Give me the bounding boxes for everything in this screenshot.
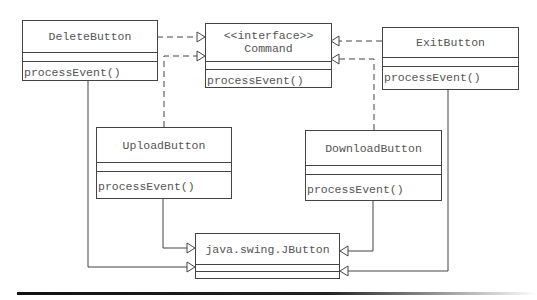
class-name-section: <<interface>> Command	[206, 24, 331, 62]
attributes-section	[196, 265, 339, 272]
class-name: java.swing.JButton	[205, 243, 329, 256]
realization-upload-to-command	[164, 56, 197, 127]
class-command-interface: <<interface>> Command processEvent()	[205, 23, 332, 88]
methods-section: processEvent()	[97, 172, 231, 198]
realization-download-to-command	[339, 59, 374, 130]
triangle-arrow-icon	[331, 54, 339, 64]
method: processEvent()	[384, 71, 481, 84]
triangle-arrow-icon	[331, 36, 339, 46]
methods-section	[196, 272, 339, 278]
attributes-section	[306, 166, 441, 175]
triangle-arrow-icon	[340, 246, 348, 256]
attributes-section	[383, 58, 518, 67]
stereotype: <<interface>>	[224, 29, 314, 42]
class-name: DeleteButton	[49, 30, 132, 43]
triangle-arrow-icon	[340, 266, 348, 276]
attributes-section	[206, 62, 331, 70]
method: processEvent()	[307, 183, 404, 196]
class-download-button: DownloadButton processEvent()	[305, 130, 442, 201]
class-name: DownloadButton	[325, 142, 422, 155]
class-exit-button: ExitButton processEvent()	[382, 27, 519, 90]
method: processEvent()	[207, 74, 304, 87]
methods-section: processEvent()	[383, 67, 518, 89]
attributes-section	[97, 163, 231, 172]
methods-section: processEvent()	[206, 70, 331, 87]
class-upload-button: UploadButton processEvent()	[96, 127, 232, 199]
triangle-arrow-icon	[187, 262, 195, 272]
class-name: UploadButton	[123, 139, 206, 152]
class-delete-button: DeleteButton processEvent()	[22, 20, 158, 81]
attributes-section	[23, 53, 157, 62]
method: processEvent()	[24, 66, 121, 79]
methods-section: processEvent()	[23, 62, 157, 80]
class-jbutton: java.swing.JButton	[195, 233, 340, 279]
class-name: Command	[244, 42, 292, 55]
class-name: ExitButton	[416, 36, 485, 49]
class-name-section: DownloadButton	[306, 131, 441, 166]
triangle-arrow-icon	[197, 32, 205, 42]
bottom-rule-divider	[17, 292, 537, 295]
generalization-upload-to-jbutton	[163, 198, 187, 248]
class-name-section: DeleteButton	[23, 21, 157, 53]
class-name-section: UploadButton	[97, 128, 231, 163]
generalization-download-to-jbutton	[348, 200, 373, 251]
class-name-section: ExitButton	[383, 28, 518, 58]
methods-section: processEvent()	[306, 175, 441, 200]
method: processEvent()	[98, 180, 195, 193]
class-name-section: java.swing.JButton	[196, 234, 339, 265]
triangle-arrow-icon	[187, 243, 195, 253]
triangle-arrow-icon	[197, 51, 205, 61]
